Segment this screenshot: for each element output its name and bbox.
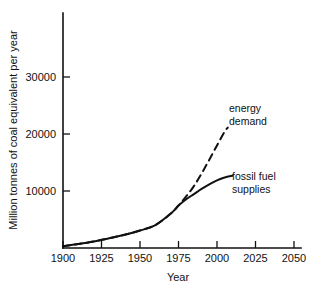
x-tick-label-1975: 1975 bbox=[166, 252, 190, 264]
energy-demand-annotation-line-2: demand bbox=[229, 115, 267, 127]
energy-demand-annotation-line-1: energy bbox=[229, 102, 262, 114]
x-tick-label-1900: 1900 bbox=[51, 252, 75, 264]
series-line-fossil-fuel-supplies bbox=[63, 176, 232, 247]
x-tick-label-2000: 2000 bbox=[205, 252, 229, 264]
x-axis-title: Year bbox=[167, 271, 190, 283]
y-axis-title: Million tonnes of coal equivalent per ye… bbox=[7, 30, 19, 230]
fossil-fuel-supplies-annotation-line-2: supplies bbox=[232, 183, 271, 195]
fossil-fuel-supplies-annotation: fossil fuel supplies bbox=[232, 170, 276, 195]
energy-demand-vs-fossil-fuel-supplies-chart: Million tonnes of coal equivalent per ye… bbox=[0, 0, 318, 290]
y-tick-label-30000: 30000 bbox=[25, 71, 56, 83]
y-tick-label-20000: 20000 bbox=[25, 128, 56, 140]
x-tick-label-2050: 2050 bbox=[282, 252, 306, 264]
x-tick-label-2025: 2025 bbox=[243, 252, 267, 264]
chart-figure: Million tonnes of coal equivalent per ye… bbox=[0, 0, 318, 290]
y-tick-label-10000: 10000 bbox=[25, 185, 56, 197]
x-tick-label-1925: 1925 bbox=[89, 252, 113, 264]
x-tick-label-1950: 1950 bbox=[128, 252, 152, 264]
energy-demand-annotation: energy demand bbox=[229, 102, 267, 127]
fossil-fuel-supplies-annotation-line-1: fossil fuel bbox=[232, 170, 276, 182]
